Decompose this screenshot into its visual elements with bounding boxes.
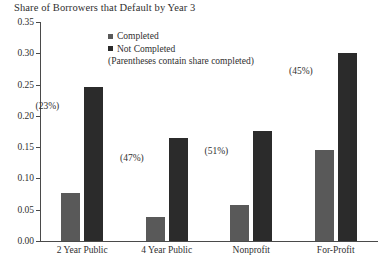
legend-label-not-completed: Not Completed [117,43,175,56]
chart-container: Share of Borrowers that Default by Year … [0,0,387,268]
y-axis-tick-mark [36,178,40,179]
y-axis-tick-mark [36,241,40,242]
bar [315,150,334,241]
y-axis-tick-mark [36,116,40,117]
x-axis-category-label: Nonprofit [233,245,270,255]
legend-swatch-icon-not-completed [108,46,113,51]
y-axis-tick-label: 0.00 [17,236,34,246]
x-axis-category-label: 4 Year Public [141,245,192,255]
y-axis-tick-mark [36,147,40,148]
chart-legend: Completed Not Completed (Parentheses con… [108,30,254,68]
bar [169,138,188,241]
y-axis-tick-label: 0.10 [17,173,34,183]
bar-annotation: (45%) [289,66,313,76]
y-axis-tick-mark [36,22,40,23]
y-axis-tick-mark [36,85,40,86]
y-axis-tick-label: 0.05 [17,205,34,215]
bar [253,131,272,241]
legend-item-completed: Completed [108,30,254,43]
x-axis-line [40,241,378,242]
bar [146,217,165,241]
bar-annotation: (47%) [120,153,144,163]
legend-note: (Parentheses contain share completed) [108,55,254,68]
legend-swatch-icon-completed [108,34,113,39]
legend-item-not-completed: Not Completed [108,43,254,56]
y-axis-tick-mark [36,53,40,54]
y-axis-tick-label: 0.15 [17,142,34,152]
y-axis-tick-label: 0.25 [17,80,34,90]
bar [61,193,80,241]
bar-annotation: (51%) [205,146,229,156]
y-axis-tick-label: 0.20 [17,111,34,121]
bar [84,87,103,241]
chart-title: Share of Borrowers that Default by Year … [14,2,195,13]
y-axis-tick-label: 0.35 [17,17,34,27]
bar [338,53,357,241]
y-axis-tick-mark [36,210,40,211]
legend-label-completed: Completed [117,30,159,43]
y-axis-tick-label: 0.30 [17,48,34,58]
x-axis-category-label: For-Profit [317,245,355,255]
y-axis-line [40,22,41,241]
x-axis-category-label: 2 Year Public [57,245,108,255]
bar-annotation: (23%) [36,101,60,111]
bar [230,205,249,241]
